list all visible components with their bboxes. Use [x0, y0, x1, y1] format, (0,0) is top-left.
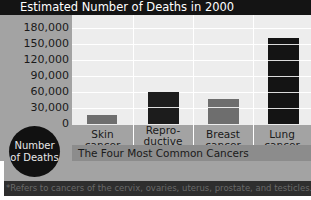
gridline-180000 [72, 28, 311, 29]
bar-breast-cancer [208, 99, 239, 124]
chart-title: Estimated Number of Deaths in 2000 [0, 0, 311, 15]
y-tick-120000: 120,000 [0, 54, 69, 65]
margin-strip [0, 196, 311, 200]
plot-area [72, 15, 311, 125]
x-axis-title: The Four Most Common Cancers [72, 145, 311, 161]
y-tick-150000: 150,000 [0, 38, 69, 49]
bar-reproductive-cancers [148, 92, 179, 124]
y-tick-180000: 180,000 [0, 22, 69, 33]
y-tick-90000: 90,000 [0, 70, 69, 81]
y-tick-60000: 60,000 [0, 86, 69, 97]
bar-lung-cancer [268, 38, 299, 124]
footnote: *Refers to cancers of the cervix, ovarie… [4, 181, 311, 196]
y-axis-label-badge: Number of Deaths [9, 126, 60, 177]
bar-skin-cancer [87, 115, 117, 124]
y-tick-30000: 30,000 [0, 102, 69, 113]
category-labels: Skin cancer Repro- ductive cancers* Brea… [72, 125, 311, 145]
